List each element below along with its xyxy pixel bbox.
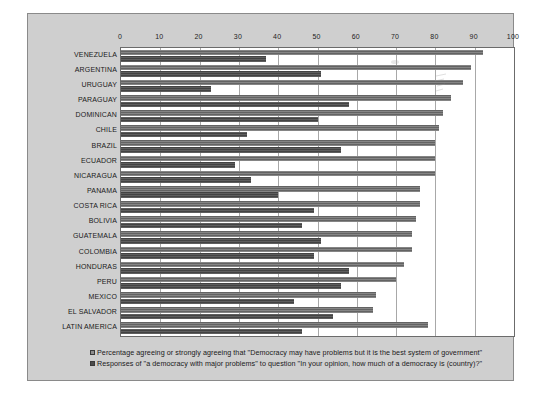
category-label-el-salvador: EL SALVADOR bbox=[68, 308, 117, 316]
bar-series-2-peru bbox=[121, 283, 341, 289]
category-label-brazil: BRAZIL bbox=[92, 142, 117, 150]
bar-series-2-uruguay bbox=[121, 86, 211, 92]
category-label-peru: PERU bbox=[97, 278, 117, 286]
series-1-swatch-icon bbox=[90, 350, 95, 355]
x-tick-label-70: 70 bbox=[391, 33, 399, 40]
legend-label-series-1: Percentage agreeing or strongly agreeing… bbox=[97, 348, 482, 358]
bar-series-1-peru bbox=[121, 277, 396, 283]
chart-plate: 0102030405060708090100 VENEZUELAARGENTIN… bbox=[27, 13, 514, 381]
bar-series-1-costa-rica bbox=[121, 201, 420, 207]
category-label-guatemala: GUATEMALA bbox=[73, 232, 117, 240]
chart-page: 0102030405060708090100 VENEZUELAARGENTIN… bbox=[0, 0, 537, 405]
category-label-chile: CHILE bbox=[96, 126, 117, 134]
bar-series-1-panama bbox=[121, 186, 420, 192]
x-tick-label-80: 80 bbox=[430, 33, 438, 40]
bar-series-2-ecuador bbox=[121, 162, 235, 168]
bar-series-1-el-salvador bbox=[121, 307, 373, 313]
bar-series-2-el-salvador bbox=[121, 314, 333, 320]
gridline-80 bbox=[435, 48, 436, 336]
category-label-paraguay: PARAGUAY bbox=[78, 96, 117, 104]
bar-series-2-panama bbox=[121, 192, 278, 198]
category-label-venezuela: VENEZUELA bbox=[74, 51, 117, 59]
x-tick-label-40: 40 bbox=[273, 33, 281, 40]
series-2-swatch-icon bbox=[90, 361, 95, 366]
bar-series-2-nicaragua bbox=[121, 177, 251, 183]
category-label-honduras: HONDURAS bbox=[76, 263, 117, 271]
bar-series-1-colombia bbox=[121, 247, 412, 253]
category-label-nicaragua: NICARAGUA bbox=[74, 172, 117, 180]
bar-series-1-latin-america bbox=[121, 322, 428, 328]
bar-series-1-paraguay bbox=[121, 95, 451, 101]
category-label-colombia: COLOMBIA bbox=[79, 248, 117, 256]
category-label-mexico: MEXICO bbox=[88, 293, 117, 301]
bar-series-2-honduras bbox=[121, 268, 349, 274]
bar-series-2-costa-rica bbox=[121, 208, 314, 214]
bar-series-2-venezuela bbox=[121, 56, 266, 62]
x-tick-label-50: 50 bbox=[312, 33, 320, 40]
legend-label-series-2: Responses of "a democracy with major pro… bbox=[97, 359, 482, 369]
x-tick-label-100: 100 bbox=[507, 33, 519, 40]
bar-series-1-bolivia bbox=[121, 216, 416, 222]
bar-series-1-brazil bbox=[121, 140, 435, 146]
bar-series-2-colombia bbox=[121, 253, 314, 259]
bar-series-2-mexico bbox=[121, 299, 294, 305]
bar-series-1-ecuador bbox=[121, 156, 435, 162]
bar-series-2-bolivia bbox=[121, 223, 302, 229]
category-label-dominican: DOMINICAN bbox=[76, 111, 117, 119]
chart-legend: Percentage agreeing or strongly agreeing… bbox=[90, 348, 510, 369]
bar-series-1-chile bbox=[121, 125, 439, 131]
bar-series-2-argentina bbox=[121, 71, 321, 77]
x-tick-label-90: 90 bbox=[470, 33, 478, 40]
legend-entry-series-1: Percentage agreeing or strongly agreeing… bbox=[90, 348, 510, 358]
category-label-latin-america: LATIN AMERICA bbox=[62, 323, 117, 331]
category-label-panama: PANAMA bbox=[87, 187, 117, 195]
category-label-bolivia: BOLIVIA bbox=[89, 217, 117, 225]
legend-entry-series-2: Responses of "a democracy with major pro… bbox=[90, 359, 510, 369]
category-label-costa-rica: COSTA RICA bbox=[74, 202, 117, 210]
bar-series-2-brazil bbox=[121, 147, 341, 153]
bar-series-1-mexico bbox=[121, 292, 376, 298]
bar-series-2-latin-america bbox=[121, 329, 302, 335]
category-label-uruguay: URUGUAY bbox=[81, 81, 117, 89]
bar-series-1-uruguay bbox=[121, 80, 463, 86]
bar-series-1-nicaragua bbox=[121, 171, 435, 177]
category-label-argentina: ARGENTINA bbox=[75, 66, 117, 74]
gridline-70 bbox=[396, 48, 397, 336]
bar-series-1-honduras bbox=[121, 262, 404, 268]
bar-series-1-venezuela bbox=[121, 50, 483, 56]
bar-series-2-paraguay bbox=[121, 102, 349, 108]
plot-area bbox=[120, 47, 515, 337]
category-label-ecuador: ECUADOR bbox=[81, 157, 117, 165]
x-tick-label-30: 30 bbox=[234, 33, 242, 40]
gridline-90 bbox=[475, 48, 476, 336]
category-axis-labels: VENEZUELAARGENTINAURUGUAYPARAGUAYDOMINIC… bbox=[28, 47, 117, 335]
bar-series-2-dominican bbox=[121, 117, 318, 123]
bar-series-1-guatemala bbox=[121, 231, 412, 237]
x-tick-label-60: 60 bbox=[352, 33, 360, 40]
x-tick-label-10: 10 bbox=[155, 33, 163, 40]
x-tick-label-0: 0 bbox=[118, 33, 122, 40]
bar-series-1-argentina bbox=[121, 65, 471, 71]
bar-series-2-chile bbox=[121, 132, 247, 138]
bar-series-2-guatemala bbox=[121, 238, 321, 244]
x-tick-label-20: 20 bbox=[195, 33, 203, 40]
bar-series-1-dominican bbox=[121, 110, 443, 116]
